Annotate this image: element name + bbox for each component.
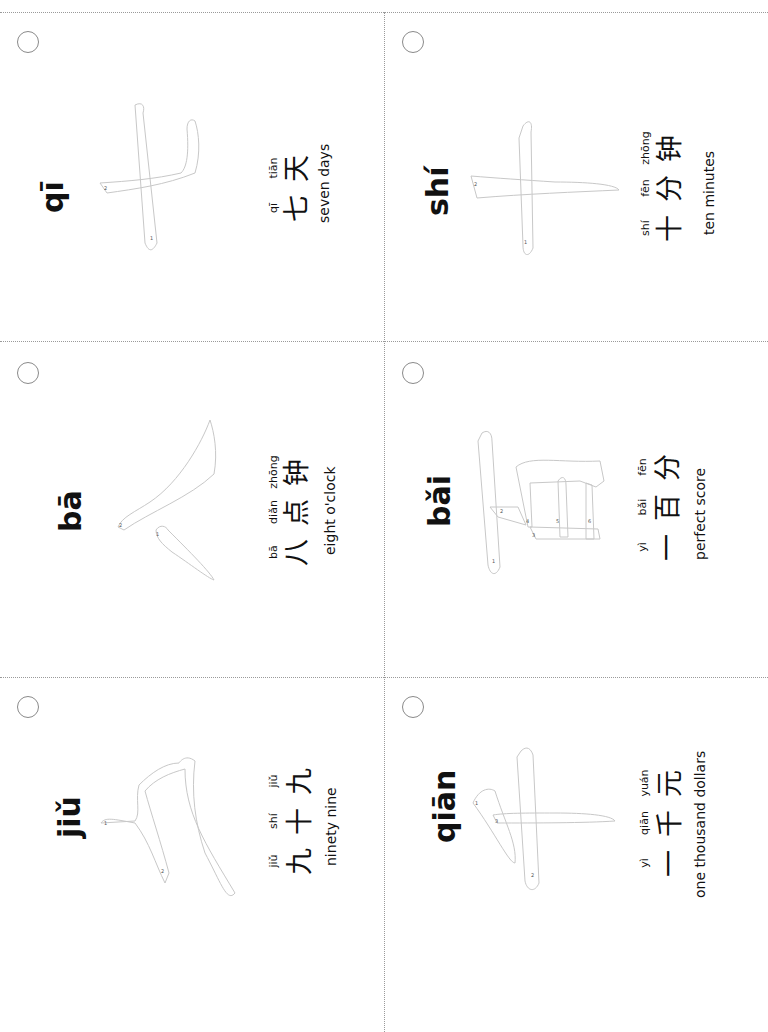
svg-text:2: 2	[119, 522, 122, 528]
svg-text:1: 1	[104, 820, 107, 826]
svg-text:2: 2	[500, 508, 503, 514]
svg-text:1: 1	[524, 239, 527, 245]
example-english: ten minutes	[701, 151, 717, 235]
stroke-outline-jiu: 1 2	[95, 733, 245, 903]
punch-hole-icon	[402, 362, 424, 384]
example-hanzi: 一 百 分	[653, 447, 683, 567]
svg-text:2: 2	[474, 181, 477, 187]
card-title: jiǔ	[55, 796, 85, 838]
card-title: bǎi	[425, 475, 455, 527]
example-pinyin: bā diǎn zhōng	[268, 452, 280, 572]
svg-text:1: 1	[492, 558, 495, 564]
punch-hole-icon	[17, 31, 39, 53]
flashcard-ba: bā 1 2 bā diǎn zhōng 八 点 钟 eight o'clock	[0, 342, 384, 677]
punch-hole-icon	[402, 696, 424, 718]
flashcard-shi: shí 1 2 shí fēn zhōng 十 分 钟 ten minutes	[385, 13, 768, 341]
stroke-number: 2	[104, 185, 107, 191]
example-pinyin: shí fēn zhōng	[640, 128, 652, 248]
svg-text:5: 5	[556, 518, 559, 524]
svg-text:1: 1	[475, 800, 478, 806]
stroke-outline-shi: 1 2	[465, 108, 625, 268]
flashcard-jiu: jiǔ 1 2 jiǔ shí jiǔ 九 十 九 ninety nine	[0, 678, 384, 1032]
card-title: bā	[56, 490, 86, 532]
example-english: ninety nine	[323, 787, 339, 866]
card-title: shí	[423, 167, 453, 217]
example-pinyin: jiǔ shí jiǔ	[268, 761, 280, 881]
card-title: qī	[38, 181, 68, 213]
example-hanzi: 一 千 元	[655, 763, 685, 883]
svg-text:1: 1	[156, 531, 159, 537]
example-english: one thousand dollars	[692, 751, 708, 898]
punch-hole-icon	[402, 31, 424, 53]
flashcard-bai: bǎi 1 2 3 4 5 6 yì bǎi fēn 一 百 分 perfect…	[385, 342, 768, 677]
example-hanzi: 九 十 九	[285, 761, 315, 881]
example-hanzi: 十 分 钟	[655, 128, 685, 248]
svg-text:6: 6	[588, 518, 591, 524]
svg-text:4: 4	[526, 518, 529, 524]
stroke-outline-ba: 1 2	[110, 402, 230, 592]
stroke-number: 1	[150, 235, 153, 241]
stroke-outline-qi: 1 2	[95, 93, 215, 263]
stroke-outline-qian: 1 2 3	[465, 743, 625, 903]
example-hanzi: 八 点 钟	[282, 452, 312, 572]
flashcard-sheet: qī 1 2 qī tiān 七 天 seven days shí 1 2 sh…	[0, 0, 768, 1032]
example-pinyin: qī tiān	[268, 148, 280, 228]
flashcard-qian: qiān 1 2 3 yì qiān yuán 一 千 元 one thousa…	[385, 678, 768, 1032]
svg-text:2: 2	[531, 872, 534, 878]
card-title: qiān	[430, 770, 460, 843]
example-pinyin: yì qiān yuán	[639, 763, 651, 883]
svg-text:3: 3	[532, 532, 535, 538]
example-english: seven days	[316, 144, 332, 223]
example-english: eight o'clock	[322, 466, 338, 555]
example-pinyin: yì bǎi fēn	[637, 447, 649, 567]
svg-text:3: 3	[495, 818, 498, 824]
flashcard-qi: qī 1 2 qī tiān 七 天 seven days	[0, 13, 384, 341]
example-hanzi: 七 天	[282, 148, 312, 228]
svg-text:2: 2	[161, 868, 164, 874]
stroke-outline-bai: 1 2 3 4 5 6	[470, 427, 620, 587]
punch-hole-icon	[17, 362, 39, 384]
punch-hole-icon	[17, 696, 39, 718]
example-english: perfect score	[692, 468, 708, 560]
